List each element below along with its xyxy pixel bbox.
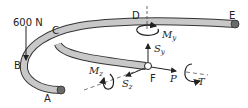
sz-subscript: z bbox=[129, 83, 133, 91]
t-axis-line bbox=[186, 72, 208, 75]
section-f-circle bbox=[145, 63, 152, 70]
my-symbol: M bbox=[162, 29, 172, 40]
point-label-a: A bbox=[44, 94, 51, 104]
t-label: T bbox=[198, 77, 205, 87]
my-moment-arrow bbox=[137, 25, 159, 35]
load-label: 600 N bbox=[13, 18, 43, 28]
mz-moment-arrow bbox=[103, 74, 113, 89]
bent-rod-diagram: 600 N B A C D E F My Sy P Sz Mz T bbox=[0, 0, 248, 108]
p-arrow bbox=[151, 67, 176, 71]
sy-subscript: y bbox=[161, 48, 165, 56]
end-cap-e bbox=[231, 20, 239, 28]
point-label-e: E bbox=[229, 11, 235, 21]
point-label-d: D bbox=[132, 11, 140, 21]
sy-label: Sy bbox=[154, 44, 165, 56]
mz-label: Mz bbox=[89, 66, 103, 78]
my-label: My bbox=[162, 30, 176, 42]
mz-subscript: z bbox=[99, 70, 103, 78]
sz-arrow bbox=[126, 68, 145, 76]
sy-symbol: S bbox=[154, 43, 161, 54]
mz-symbol: M bbox=[89, 65, 99, 76]
point-label-c: C bbox=[52, 26, 59, 36]
my-subscript: y bbox=[172, 34, 176, 42]
sz-label: Sz bbox=[122, 79, 133, 91]
p-label: P bbox=[170, 74, 177, 84]
end-cap-a bbox=[57, 86, 65, 94]
sz-symbol: S bbox=[122, 78, 129, 89]
point-label-f: F bbox=[150, 74, 156, 84]
point-label-b: B bbox=[14, 61, 21, 71]
branch-rod bbox=[58, 44, 146, 66]
